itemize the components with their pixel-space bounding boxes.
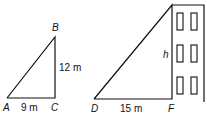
label-d: D [91,103,98,114]
label-df-length: 15 m [120,103,142,114]
similar-triangles-diagram: B 12 m A 9 m C D 15 m F h [0,0,207,116]
window [191,77,197,94]
label-c: C [51,102,59,113]
label-b: B [52,22,59,33]
window [177,45,183,62]
label-a: A [2,102,10,113]
label-f: F [168,103,175,114]
building [172,5,204,102]
window [191,45,197,62]
triangle-def [94,5,172,99]
label-ac-length: 9 m [21,102,38,113]
label-bc-length: 12 m [59,62,81,73]
window [177,77,183,94]
label-h: h [163,49,169,60]
triangle-abc [7,37,55,98]
window [177,13,183,30]
window [191,13,197,30]
